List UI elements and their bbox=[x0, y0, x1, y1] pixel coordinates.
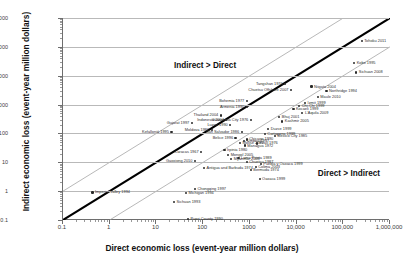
data-point-label: Kashmir 2005 bbox=[285, 119, 309, 123]
y-minor-tick bbox=[60, 135, 62, 136]
y-tick-label: 10 bbox=[0, 159, 8, 165]
data-point-label: Northridge 1994 bbox=[329, 89, 357, 93]
x-minor-tick bbox=[293, 220, 294, 222]
x-minor-tick bbox=[384, 220, 385, 222]
y-minor-tick bbox=[60, 109, 62, 110]
x-minor-tick bbox=[230, 220, 231, 222]
y-minor-tick bbox=[60, 33, 62, 34]
region-annotation: Direct > Indirect bbox=[318, 169, 380, 178]
x-minor-tick bbox=[263, 220, 264, 222]
x-minor-tick bbox=[184, 220, 185, 222]
data-point[interactable] bbox=[250, 119, 252, 121]
x-minor-tick bbox=[131, 220, 132, 222]
x-minor-tick bbox=[338, 220, 339, 222]
x-minor-tick bbox=[247, 220, 248, 222]
data-point[interactable] bbox=[91, 191, 93, 193]
y-minor-tick bbox=[60, 182, 62, 183]
y-minor-tick bbox=[60, 167, 62, 168]
x-minor-tick bbox=[238, 220, 239, 222]
y-minor-tick bbox=[60, 192, 62, 193]
data-point-label: Bohemia 1977 bbox=[219, 99, 244, 103]
data-point-label: Gaoxiong 2010 bbox=[166, 159, 192, 163]
x-minor-tick bbox=[235, 220, 236, 222]
x-minor-tick bbox=[153, 220, 154, 222]
y-minor-tick bbox=[60, 113, 62, 114]
y-minor-tick bbox=[60, 111, 62, 112]
data-point[interactable] bbox=[237, 157, 239, 159]
y-minor-tick bbox=[60, 79, 62, 80]
data-point[interactable] bbox=[292, 108, 294, 110]
x-tick-label: 100 bbox=[177, 224, 227, 230]
data-point[interactable] bbox=[259, 178, 261, 180]
y-minor-tick bbox=[60, 67, 62, 68]
x-minor-tick bbox=[332, 220, 333, 222]
y-minor-tick bbox=[60, 169, 62, 170]
x-minor-tick bbox=[76, 220, 77, 222]
x-minor-tick bbox=[137, 220, 138, 222]
data-point[interactable] bbox=[234, 137, 236, 139]
y-tick-mark bbox=[58, 76, 62, 77]
y-tick-mark bbox=[58, 191, 62, 192]
y-minor-tick bbox=[60, 22, 62, 23]
y-minor-tick bbox=[60, 107, 62, 108]
y-minor-tick bbox=[60, 154, 62, 155]
y-minor-tick bbox=[60, 138, 62, 139]
data-point-label: Bermuda 1974 bbox=[253, 168, 279, 172]
x-minor-tick bbox=[370, 220, 371, 222]
y-tick-label: 1 bbox=[0, 188, 8, 194]
x-minor-tick bbox=[90, 220, 91, 222]
y-minor-tick bbox=[60, 120, 62, 121]
y-tick-label: 0.1 bbox=[0, 217, 8, 223]
y-minor-tick bbox=[60, 106, 62, 107]
y-minor-tick bbox=[60, 19, 62, 20]
y-minor-tick bbox=[60, 82, 62, 83]
data-point[interactable] bbox=[325, 90, 327, 92]
x-minor-tick bbox=[101, 220, 102, 222]
data-point-label: Maule 2010 bbox=[320, 95, 340, 99]
y-minor-tick bbox=[60, 84, 62, 85]
x-minor-tick bbox=[98, 220, 99, 222]
y-minor-tick bbox=[60, 53, 62, 54]
y-minor-tick bbox=[60, 196, 62, 197]
y-minor-tick bbox=[60, 164, 62, 165]
x-minor-tick bbox=[318, 220, 319, 222]
y-minor-tick bbox=[60, 87, 62, 88]
x-tick-label: 1,000,000 bbox=[364, 224, 404, 230]
data-point-label: Luzon 1990 bbox=[207, 123, 227, 127]
data-point-label: Kefalloniá 1995 bbox=[142, 130, 169, 134]
y-minor-tick bbox=[60, 24, 62, 25]
x-minor-tick bbox=[340, 220, 341, 222]
y-minor-tick bbox=[60, 48, 62, 49]
data-point-label: Pueri County 1990 bbox=[191, 217, 223, 221]
y-axis-title: Indirect economic loss (event-year milli… bbox=[21, 2, 32, 222]
y-minor-tick bbox=[60, 56, 62, 57]
y-minor-tick bbox=[60, 38, 62, 39]
y-tick-mark bbox=[58, 162, 62, 163]
y-tick-mark bbox=[58, 47, 62, 48]
gridline bbox=[63, 162, 389, 163]
y-tick-label: 100,000 bbox=[0, 44, 8, 50]
x-minor-tick bbox=[145, 220, 146, 222]
data-point[interactable] bbox=[203, 167, 205, 169]
y-minor-tick bbox=[60, 174, 62, 175]
data-point-label: Michigan 1994 bbox=[188, 191, 213, 195]
data-point[interactable] bbox=[361, 40, 363, 42]
x-minor-tick bbox=[288, 220, 289, 222]
data-point[interactable] bbox=[310, 85, 312, 87]
x-minor-tick bbox=[285, 220, 286, 222]
x-axis-title: Direct economic loss (event-year million… bbox=[0, 243, 404, 253]
scatter-chart: Indirect economic loss (event-year milli… bbox=[0, 0, 404, 267]
x-tick-label: 100,000 bbox=[317, 224, 367, 230]
x-minor-tick bbox=[148, 220, 149, 222]
x-minor-tick bbox=[242, 220, 243, 222]
x-minor-tick bbox=[291, 220, 292, 222]
y-tick-label: 1000 bbox=[0, 102, 8, 108]
x-tick-label: 0.1 bbox=[37, 224, 87, 230]
gridline bbox=[63, 18, 389, 19]
data-point[interactable] bbox=[239, 142, 241, 144]
y-minor-tick bbox=[60, 194, 62, 195]
data-point-label: Kobe 1995 bbox=[357, 61, 376, 65]
x-minor-tick bbox=[282, 220, 283, 222]
y-minor-tick bbox=[60, 206, 62, 207]
data-point[interactable] bbox=[191, 122, 193, 124]
